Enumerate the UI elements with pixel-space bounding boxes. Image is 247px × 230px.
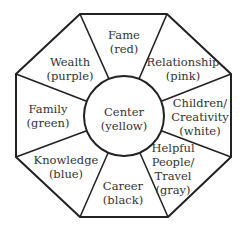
- bagua-diagram: Center(yellow) Fame(red) Relationship(pi…: [0, 0, 247, 230]
- section-career: Career(black): [103, 179, 144, 207]
- section-children: Children/Creativity(white): [171, 96, 229, 138]
- section-helpful-people: HelpfulPeople/Travel(gray): [151, 141, 195, 197]
- section-fame: Fame(red): [108, 28, 140, 56]
- section-family: Family(green): [27, 102, 70, 130]
- section-wealth: Wealth(purple): [46, 55, 93, 83]
- center-label: Center(yellow): [101, 105, 147, 133]
